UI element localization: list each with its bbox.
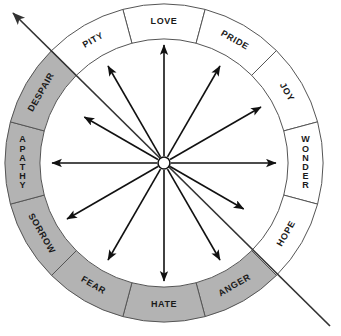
radial-arrow-240 <box>108 66 161 157</box>
wheel-canvas: LOVEPRIDEJOYWONDERHOPEANGERHATEFEARSORRO… <box>0 0 341 336</box>
segment-label-love: LOVE <box>151 16 178 26</box>
radial-arrow-30 <box>170 167 244 210</box>
segment-label-hate: HATE <box>151 299 177 309</box>
svg-text:Y: Y <box>19 180 25 190</box>
radial-arrow-150 <box>67 167 158 220</box>
radial-arrow--30 <box>170 107 261 160</box>
svg-text:R: R <box>302 180 309 190</box>
segment-label-apathy: APATHY <box>19 134 26 190</box>
center-hub <box>158 157 170 169</box>
radial-arrow-210 <box>84 117 158 160</box>
radial-arrow-120 <box>108 169 161 260</box>
radial-arrow--60 <box>168 66 221 157</box>
emotion-wheel-diagram: LOVEPRIDEJOYWONDERHOPEANGERHATEFEARSORRO… <box>0 0 341 336</box>
center-hub-circle <box>158 157 170 169</box>
radial-arrow-60 <box>168 169 221 260</box>
